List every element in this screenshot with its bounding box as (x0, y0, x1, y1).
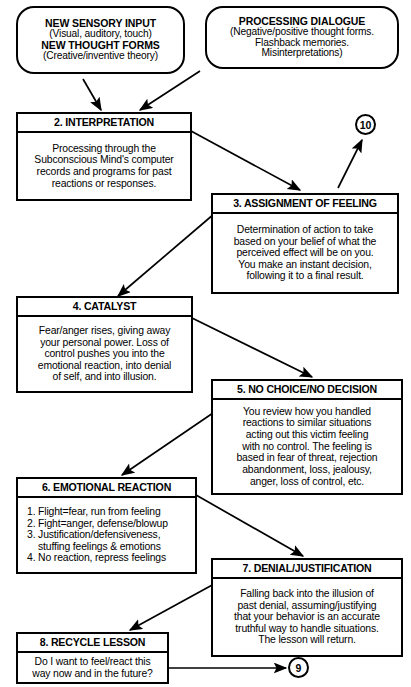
step-5-title: 5. NO CHOICE/NO DECISION (213, 381, 401, 400)
step-6-title: 6. EMOTIONAL REACTION (18, 479, 195, 498)
step-2-body-line-4: reactions or responses. (21, 178, 187, 190)
step-7-body-line-3: that your behavior is an accurate (216, 611, 398, 623)
step-7-body-line-2: past denial, assuming/justifying (216, 600, 398, 612)
step-4-body-line-4: emotional reaction, into denial (21, 360, 188, 372)
step-box-7-denial-justification: 7. DENIAL/JUSTIFICATION Falling back int… (211, 558, 403, 657)
step-2-body-line-2: Subconscious Mind's computer (21, 154, 187, 166)
step-3-body-line-5: following it to a final result. (216, 270, 394, 282)
step-box-3-assignment-of-feeling: 3. ASSIGNMENT OF FEELING Determination o… (211, 193, 399, 294)
step-3-body-line-1: Determination of action to take (216, 224, 394, 236)
step-7-title: 7. DENIAL/JUSTIFICATION (213, 560, 401, 579)
step-6-body-line-5: 4. No reaction, repress feelings (27, 552, 192, 564)
step-7-body: Falling back into the illusion of past d… (213, 579, 401, 655)
step-4-body-line-1: Fear/anger rises, giving away (21, 325, 188, 337)
step-3-body-line-3: perceived effect will be on you. (216, 247, 394, 259)
step-6-body-line-3: 3. Justification/defensiveness, (27, 529, 192, 541)
step-4-body: Fear/anger rises, giving away your perso… (18, 317, 191, 391)
step-8-body-line-1: Do I want to feel/react this (21, 656, 164, 668)
step-2-title: 2. INTERPRETATION (18, 114, 190, 133)
reference-marker-9: 9 (288, 657, 309, 678)
step-box-5-no-choice-no-decision: 5. NO CHOICE/NO DECISION You review how … (211, 379, 403, 495)
step-7-body-line-4: truthful way to handle situations. (216, 623, 398, 635)
step-box-4-catalyst: 4. CATALYST Fear/anger rises, giving awa… (16, 296, 193, 393)
edge-step4-to-step5 (192, 318, 312, 377)
flowchart-canvas: NEW SENSORY INPUT (Visual, auditory, tou… (0, 0, 411, 687)
step-4-body-line-2: your personal power. Loss of (21, 337, 188, 349)
step-3-body-line-2: based on your belief of what the (216, 236, 394, 248)
step-6-body: 1. Flight=fear, run from feeling 2. Figh… (18, 498, 195, 572)
step-8-body: Do I want to feel/react this way now and… (18, 653, 167, 682)
step-3-body-line-4: You make an instant decision, (216, 259, 394, 271)
reference-marker-10: 10 (355, 114, 376, 135)
step-5-body-line-6: abandonment, loss, jealousy, (216, 464, 398, 476)
step-8-body-line-2: way now and in the future? (21, 668, 164, 680)
step-4-body-line-5: of self, and into illusion. (21, 371, 188, 383)
input-new-sensory-line-4: (Creative/inventive theory) (43, 51, 158, 62)
input-new-sensory: NEW SENSORY INPUT (Visual, auditory, tou… (16, 6, 185, 74)
step-5-body-line-7: anger, loss of control, etc. (216, 476, 398, 488)
step-4-title: 4. CATALYST (18, 298, 191, 317)
step-6-body-line-4: stuffing feelings & emotions (27, 541, 192, 553)
edge-step3-to-step4 (118, 214, 214, 296)
edge-sensory-to-step2 (83, 79, 101, 110)
step-2-body-line-3: records and programs for past (21, 166, 187, 178)
step-7-body-line-5: The lesson will return. (216, 634, 398, 646)
step-6-body-line-1: 1. Flight=fear, run from feeling (27, 506, 192, 518)
step-2-body: Processing through the Subconscious Mind… (18, 133, 190, 199)
step-5-body-line-5: based in fear of threat, rejection (216, 452, 398, 464)
edge-step5-to-step6 (122, 413, 213, 475)
edge-step3-to-ref10 (338, 140, 362, 188)
edge-step6-to-step7 (196, 495, 303, 556)
step-5-body-line-3: acting out this victim feeling (216, 429, 398, 441)
input-processing-dialogue-line-4: Misinterpretations) (262, 48, 343, 59)
step-5-body: You review how you handled reactions to … (213, 400, 401, 493)
step-6-body-line-2: 2. Fight=anger, defense/blowup (27, 518, 192, 530)
reference-marker-9-label: 9 (296, 662, 302, 674)
step-5-body-line-4: with no control. The feeling is (216, 441, 398, 453)
step-8-title: 8. RECYCLE LESSON (18, 634, 167, 653)
step-2-body-line-1: Processing through the (21, 143, 187, 155)
step-box-8-recycle-lesson: 8. RECYCLE LESSON Do I want to feel/reac… (16, 632, 169, 684)
edge-dialogue-to-step2 (140, 71, 200, 110)
reference-marker-10-label: 10 (360, 119, 372, 131)
step-3-body: Determination of action to take based on… (213, 214, 397, 292)
step-5-body-line-1: You review how you handled (216, 406, 398, 418)
edge-step2-to-step3 (191, 131, 300, 190)
step-box-2-interpretation: 2. INTERPRETATION Processing through the… (16, 112, 192, 201)
step-4-body-line-3: control pushes you into the (21, 348, 188, 360)
step-3-title: 3. ASSIGNMENT OF FEELING (213, 195, 397, 214)
step-5-body-line-2: reactions to similar situations (216, 417, 398, 429)
step-7-body-line-1: Falling back into the illusion of (216, 588, 398, 600)
input-processing-dialogue: PROCESSING DIALOGUE (Negative/positive t… (205, 6, 399, 69)
step-box-6-emotional-reaction: 6. EMOTIONAL REACTION 1. Flight=fear, ru… (16, 477, 197, 574)
